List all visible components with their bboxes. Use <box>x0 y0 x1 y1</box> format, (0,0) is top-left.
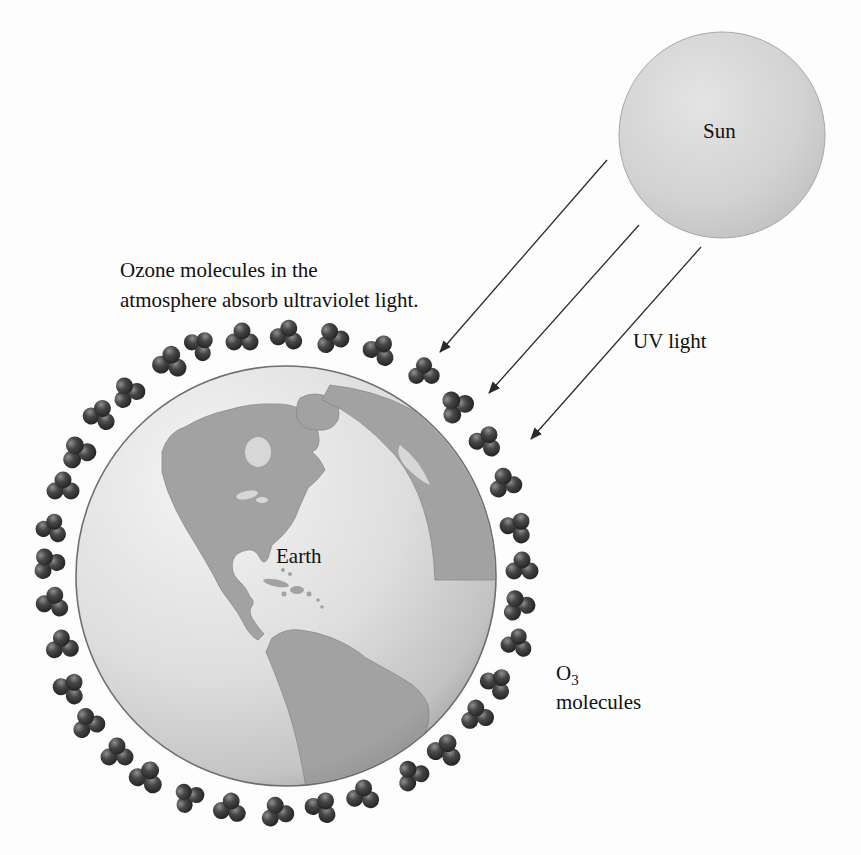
caption-line-2: atmosphere absorb ultraviolet light. <box>120 285 456 315</box>
ozone-molecule <box>257 793 296 829</box>
ozone-molecule <box>311 318 352 356</box>
ozone-molecule <box>301 785 344 826</box>
ozone-molecule <box>49 666 92 708</box>
o3-subscript: 3 <box>571 672 579 688</box>
o3-molecules-label: O3 molecules <box>556 659 641 717</box>
ozone-molecule <box>67 703 108 741</box>
ozone-molecule <box>458 697 495 730</box>
o3-word: molecules <box>556 688 641 717</box>
ozone-molecule <box>151 343 190 378</box>
o3-formula: O3 <box>556 659 641 688</box>
ozone-molecule <box>106 370 149 411</box>
earth-label: Earth <box>276 543 321 569</box>
ozone-molecule <box>55 430 99 471</box>
sun-label: Sun <box>703 118 736 144</box>
ozone-molecule <box>167 776 208 817</box>
globe-shading <box>76 366 496 786</box>
ozone-molecule <box>47 472 80 500</box>
ozone-molecule <box>424 729 467 768</box>
ozone-molecule <box>181 324 222 365</box>
ozone-molecule <box>26 541 69 582</box>
ozone-molecule <box>101 738 134 766</box>
uv-ray-arrow <box>489 225 639 393</box>
ozone-molecule <box>496 505 539 547</box>
ozone-molecule <box>345 778 380 809</box>
ozone-molecule <box>506 552 539 580</box>
uv-ray-arrow <box>440 160 607 352</box>
ozone-molecule <box>359 328 402 369</box>
ozone-molecule <box>499 625 536 659</box>
ozone-molecule <box>226 323 259 351</box>
ozone-molecule <box>432 382 477 427</box>
ozone-diagram-figure: Ozone molecules in the atmosphere absorb… <box>0 0 861 855</box>
caption-line-1: Ozone molecules in the <box>120 255 456 285</box>
o3-symbol: O <box>556 661 571 685</box>
ozone-molecule <box>44 628 79 659</box>
ozone-molecule <box>390 753 433 795</box>
ozone-molecule <box>476 661 519 704</box>
ozone-molecule <box>466 420 508 459</box>
ozone-molecule <box>33 509 72 545</box>
ozone-molecule <box>496 584 538 623</box>
uv-light-label: UV light <box>633 328 707 354</box>
ozone-molecule <box>212 790 249 823</box>
ozone-molecule <box>485 464 524 500</box>
caption-box: Ozone molecules in the atmosphere absorb… <box>108 248 456 317</box>
ozone-molecule <box>268 316 307 352</box>
ozone-molecule <box>408 357 439 384</box>
ozone-molecule <box>34 583 73 619</box>
